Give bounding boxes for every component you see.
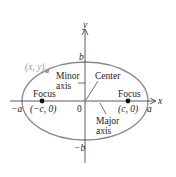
focus-right-title: Focus: [118, 89, 141, 99]
tick-neg-a: −a: [11, 104, 22, 114]
major-axis-leader: [100, 103, 106, 114]
center-leader: [86, 81, 98, 100]
x-axis-label: x: [157, 96, 163, 106]
point-on-ellipse: [45, 69, 49, 73]
point-label: (x, y): [25, 62, 45, 73]
y-axis-label: y: [82, 20, 88, 30]
tick-b: b: [79, 52, 84, 62]
y-axis: y: [82, 20, 88, 163]
major-axis-label-1: Major: [96, 116, 120, 126]
focus-left-dot: [40, 99, 45, 104]
ellipse-diagram: x y b −b −a a 0 (x, y) Focus (−c, 0) Foc…: [0, 0, 176, 177]
focus-left-title: Focus: [33, 89, 56, 99]
tick-neg-b: −b: [74, 143, 85, 153]
focus-left-coords: (−c, 0): [30, 104, 56, 115]
major-axis-label-2: axis: [96, 126, 112, 136]
tick-a: a: [147, 104, 152, 114]
origin-label: 0: [77, 104, 82, 114]
minor-axis-label-1: Minor: [56, 71, 81, 81]
center-label: Center: [95, 71, 121, 81]
focus-right-dot: [126, 99, 131, 104]
minor-axis-label-2: axis: [56, 81, 72, 91]
focus-right-coords: (c, 0): [118, 104, 138, 115]
